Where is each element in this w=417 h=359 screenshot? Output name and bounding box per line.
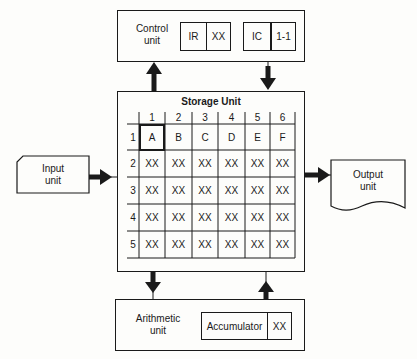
storage-cell-4-5: XX — [245, 204, 270, 231]
column-header: 1 — [139, 111, 165, 124]
storage-cell-3-6: XX — [270, 177, 295, 204]
input-unit-label-line1: Input — [17, 163, 89, 175]
storage-cell-2-6: XX — [270, 150, 295, 177]
accumulator-register-name: Accumulator — [202, 313, 268, 339]
column-header: 6 — [270, 111, 295, 124]
arithmetic-unit-label: Arithmetic unit — [126, 313, 190, 337]
storage-cell-4-2: XX — [165, 204, 192, 231]
storage-cell-2-5: XX — [245, 150, 270, 177]
row-header: 1 — [127, 124, 139, 150]
storage-cell-2-1: XX — [139, 150, 165, 177]
storage-cell-2-3: XX — [192, 150, 218, 177]
storage-cell-5-1: XX — [139, 231, 165, 258]
storage-cell-5-6: XX — [270, 231, 295, 258]
input-unit-label: Input unit — [17, 163, 89, 187]
storage-cell-2-2: XX — [165, 150, 192, 177]
column-header: 2 — [165, 111, 192, 124]
storage-cell-1-3: C — [192, 124, 218, 150]
storage-cell-1-2: B — [165, 124, 192, 150]
storage-cell-5-5: XX — [245, 231, 270, 258]
storage-cell-1-1: A — [139, 124, 165, 151]
storage-cell-4-3: XX — [192, 204, 218, 231]
column-header: 5 — [245, 111, 270, 124]
storage-cell-1-4: D — [218, 124, 245, 150]
row-header: 5 — [127, 231, 139, 258]
row-header: 2 — [127, 150, 139, 177]
storage-cell-5-2: XX — [165, 231, 192, 258]
storage-cell-1-6: F — [270, 124, 295, 150]
storage-cell-4-4: XX — [218, 204, 245, 231]
column-header: 4 — [218, 111, 245, 124]
output-unit-label: Output unit — [331, 169, 405, 193]
storage-cell-2-4: XX — [218, 150, 245, 177]
storage-cell-4-1: XX — [139, 204, 165, 231]
storage-cell-3-1: XX — [139, 177, 165, 204]
storage-cell-5-4: XX — [218, 231, 245, 258]
arithmetic-unit-label-line2: unit — [126, 325, 190, 337]
accumulator-register-value: XX — [268, 313, 291, 339]
row-header: 3 — [127, 177, 139, 204]
storage-cell-3-2: XX — [165, 177, 192, 204]
column-header: 3 — [192, 111, 218, 124]
storage-cell-3-4: XX — [218, 177, 245, 204]
storage-cell-5-3: XX — [192, 231, 218, 258]
storage-cell-3-5: XX — [245, 177, 270, 204]
output-unit-label-line1: Output — [331, 169, 405, 181]
storage-cell-3-3: XX — [192, 177, 218, 204]
output-unit-label-line2: unit — [331, 181, 405, 193]
storage-cell-1-5: E — [245, 124, 270, 150]
input-unit-label-line2: unit — [17, 175, 89, 187]
arithmetic-unit: Arithmetic unit Accumulator XX — [115, 299, 305, 351]
arithmetic-unit-label-line1: Arithmetic — [126, 313, 190, 325]
row-header: 4 — [127, 204, 139, 231]
accumulator-register: Accumulator XX — [201, 312, 292, 340]
storage-cell-4-6: XX — [270, 204, 295, 231]
